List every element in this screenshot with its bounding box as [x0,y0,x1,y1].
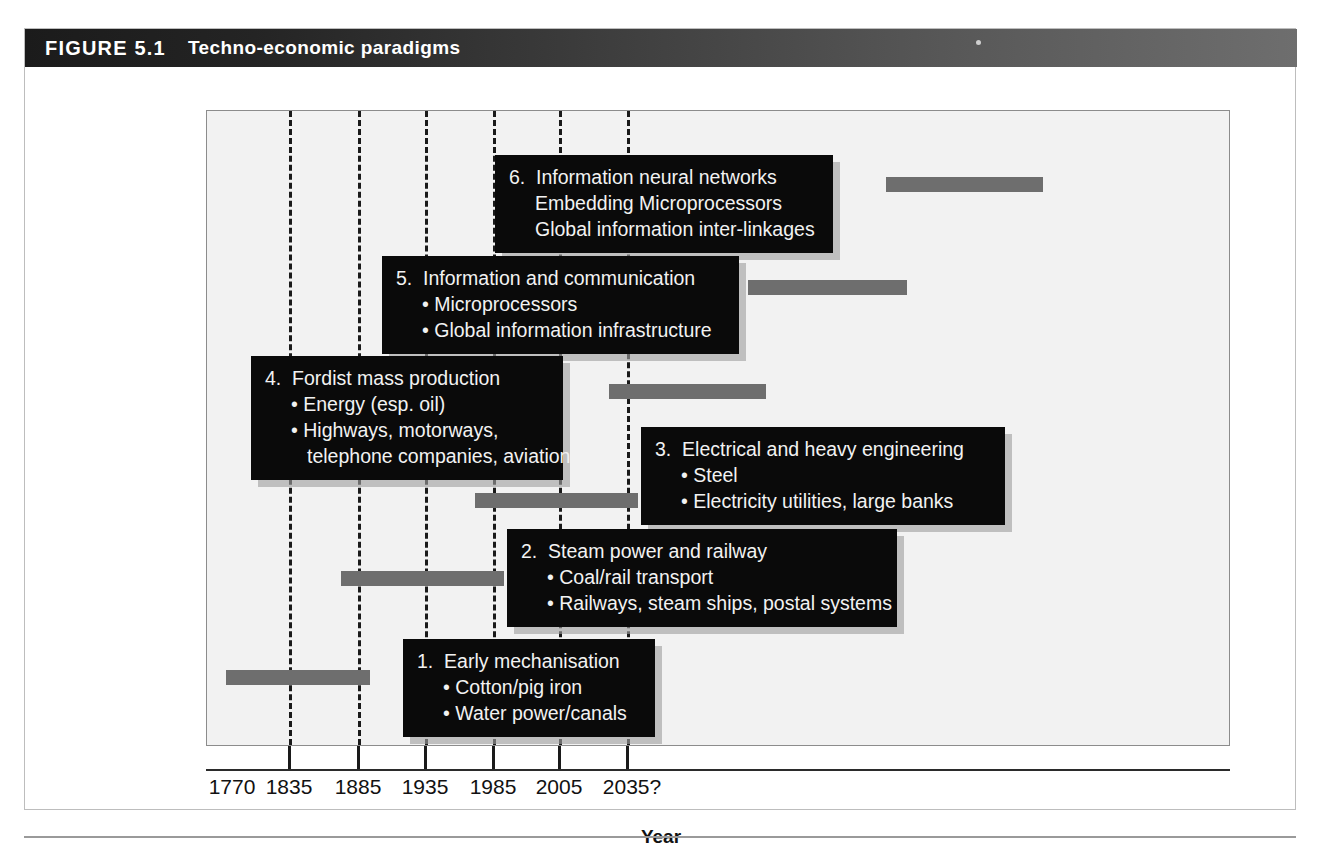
span-bar-2 [341,571,504,586]
span-bar-3 [475,493,638,508]
x-tick-label-2005: 2005 [536,775,583,799]
x-axis-line [206,769,1230,771]
x-tick-1985 [492,746,495,769]
box-1-line-2: • Cotton/pig iron [417,674,639,700]
box-1-line-1: 1. Early mechanisation [417,648,639,674]
plot-area: 6. Information neural networks Embedding… [206,110,1230,746]
span-bar-4 [609,384,766,399]
box-1-line-3: • Water power/canals [417,700,639,726]
box-4-line-2: • Energy (esp. oil) [265,391,547,417]
page-speck [976,40,981,45]
paradigm-box-5: 5. Information and communication • Micro… [382,256,739,354]
box-5-line-3: • Global information infrastructure [396,317,723,343]
box-2-line-3: • Railways, steam ships, postal systems [521,590,881,616]
x-tick-2005 [558,746,561,769]
figure-title: Techno-economic paradigms [188,37,461,59]
x-tick-label-1835: 1835 [266,775,313,799]
box-2-line-1: 2. Steam power and railway [521,538,881,564]
figure-container: FIGURE 5.1 Techno-economic paradigms 6. … [24,28,1296,810]
page-divider-rule [24,836,1296,838]
x-tick-label-1770: 1770 [209,775,256,799]
box-4-line-3: • Highways, motorways, [265,417,547,443]
figure-header-bar: FIGURE 5.1 Techno-economic paradigms [25,29,1297,67]
figure-number: FIGURE 5.1 [45,37,166,60]
x-tick-1935 [424,746,427,769]
box-6-line-2: Embedding Microprocessors [509,190,817,216]
paradigm-box-3: 3. Electrical and heavy engineering • St… [641,427,1005,525]
box-5-line-1: 5. Information and communication [396,265,723,291]
box-6-line-3: Global information inter-linkages [509,216,817,242]
span-bar-5 [748,280,907,295]
x-tick-1835 [288,746,291,769]
box-6-line-1: 6. Information neural networks [509,164,817,190]
box-3-line-2: • Steel [655,462,989,488]
x-tick-label-1885: 1885 [335,775,382,799]
span-bar-6 [886,177,1043,192]
paradigm-box-4: 4. Fordist mass production • Energy (esp… [251,356,563,480]
x-tick-label-1985: 1985 [470,775,517,799]
box-4-line-1: 4. Fordist mass production [265,365,547,391]
x-tick-2035 [626,746,629,769]
box-3-line-3: • Electricity utilities, large banks [655,488,989,514]
paradigm-box-1: 1. Early mechanisation • Cotton/pig iron… [403,639,655,737]
box-2-line-2: • Coal/rail transport [521,564,881,590]
box-4-line-4: telephone companies, aviation [265,443,547,469]
paradigm-box-2: 2. Steam power and railway • Coal/rail t… [507,529,897,627]
box-3-line-1: 3. Electrical and heavy engineering [655,436,989,462]
x-tick-label-1935: 1935 [402,775,449,799]
x-tick-label-2035: 2035? [603,775,661,799]
span-bar-1 [226,670,370,685]
paradigm-box-6: 6. Information neural networks Embedding… [495,155,833,253]
x-tick-1885 [357,746,360,769]
box-5-line-2: • Microprocessors [396,291,723,317]
